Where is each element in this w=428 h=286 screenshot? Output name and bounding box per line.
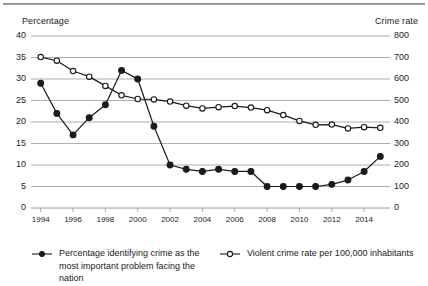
y-tick-right-300: 300 [394, 139, 422, 148]
y-tick-left-30: 30 [4, 74, 26, 83]
x-tick-2004: 2004 [185, 215, 219, 224]
x-tick-2006: 2006 [218, 215, 252, 224]
legend-label-percentage: Percentage identifying crime as the most… [59, 247, 216, 285]
x-tick-2008: 2008 [250, 215, 284, 224]
legend-label-crime-rate: Violent crime rate per 100,000 inhabitan… [247, 247, 413, 260]
y-tick-right-800: 800 [394, 31, 422, 40]
y-tick-left-35: 35 [4, 53, 26, 62]
legend-entry-crime-rate: Violent crime rate per 100,000 inhabitan… [219, 247, 419, 260]
x-tick-2014: 2014 [347, 215, 381, 224]
y-tick-left-15: 15 [4, 139, 26, 148]
y-tick-right-500: 500 [394, 96, 422, 105]
x-tick-2010: 2010 [282, 215, 316, 224]
x-tick-1996: 1996 [56, 215, 90, 224]
y-tick-left-20: 20 [4, 117, 26, 126]
y-tick-right-0: 0 [394, 203, 422, 212]
x-tick-2012: 2012 [315, 215, 349, 224]
y-tick-left-40: 40 [4, 31, 26, 40]
x-tick-2000: 2000 [121, 215, 155, 224]
series-percentage-crime-most-important [38, 68, 383, 190]
y-tick-left-25: 25 [4, 96, 26, 105]
y-tick-right-400: 400 [394, 117, 422, 126]
y-tick-right-200: 200 [394, 160, 422, 169]
filled-circle-marker-icon [31, 248, 53, 260]
legend-entry-percentage: Percentage identifying crime as the most… [31, 247, 216, 285]
y-tick-left-5: 5 [4, 182, 26, 191]
x-tick-2002: 2002 [153, 215, 187, 224]
y-tick-right-600: 600 [394, 74, 422, 83]
y-tick-left-0: 0 [4, 203, 26, 212]
open-circle-marker-icon [219, 248, 241, 260]
crime-chart-figure: Percentage Crime rate 0510152025303540 0… [0, 0, 428, 286]
y-tick-right-700: 700 [394, 53, 422, 62]
x-tick-1998: 1998 [88, 215, 122, 224]
x-tick-1994: 1994 [24, 215, 58, 224]
x-tick-marks [41, 208, 364, 212]
y-tick-right-100: 100 [394, 182, 422, 191]
y-tick-left-10: 10 [4, 160, 26, 169]
chart-legend: Percentage identifying crime as the most… [0, 243, 428, 286]
